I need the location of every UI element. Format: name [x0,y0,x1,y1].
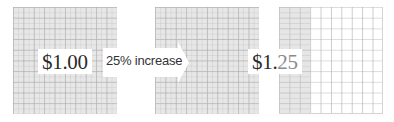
increase-label: 25% increase [106,53,182,68]
new-price-label: $1.25 [248,49,302,74]
original-price-label: $1.00 [38,49,92,74]
increase-arrow: 25% increase [103,42,189,83]
original-price-text: $1.00 [42,50,88,74]
new-price-added-text: 25 [277,50,297,74]
new-price-base-text: $1. [252,50,277,74]
